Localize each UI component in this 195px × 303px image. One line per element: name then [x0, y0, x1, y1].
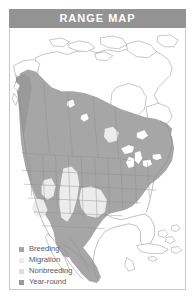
legend-swatch-year-round: [19, 280, 24, 285]
legend-item-year-round: Year-round: [19, 277, 139, 288]
legend-swatch-breeding: [19, 247, 24, 252]
legend-item-migration: Migration: [19, 255, 139, 266]
range-map-header: RANGE MAP: [9, 9, 186, 28]
legend-swatch-nonbreeding: [19, 269, 24, 274]
range-map-card: RANGE MAP: [0, 0, 195, 303]
legend-label-nonbreeding: Nonbreeding: [29, 266, 73, 276]
legend-label-migration: Migration: [29, 255, 60, 265]
range-map-legend: Breeding Migration Nonbreeding Year-roun…: [19, 244, 139, 288]
legend-label-breeding: Breeding: [29, 244, 59, 254]
legend-label-year-round: Year-round: [29, 277, 66, 287]
legend-item-breeding: Breeding: [19, 244, 139, 255]
page-title: RANGE MAP: [59, 13, 135, 24]
legend-item-nonbreeding: Nonbreeding: [19, 266, 139, 277]
legend-swatch-migration: [19, 258, 24, 263]
